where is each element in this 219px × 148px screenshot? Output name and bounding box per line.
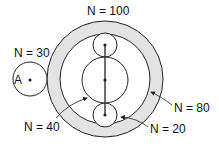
label-gear-a: N = 30 [14, 46, 50, 60]
label-gear-a-name: A [14, 73, 22, 87]
label-planet: N = 20 [150, 122, 186, 136]
label-ring-outer: N = 100 [87, 4, 130, 18]
label-ring-inner: N = 80 [174, 101, 210, 115]
gear-train-diagram: N = 100 N = 30 A N = 80 N = 40 N = 20 [0, 0, 219, 148]
label-sun: N = 40 [24, 120, 60, 134]
